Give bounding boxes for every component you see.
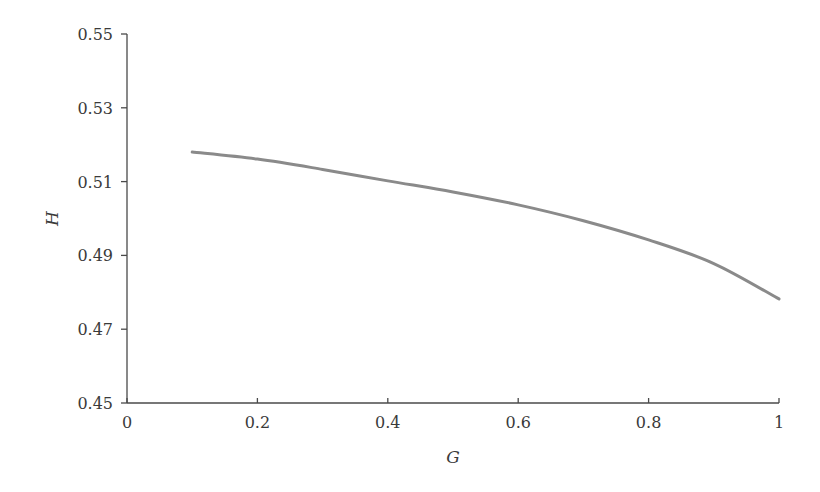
x-tick-label: 0.8 — [636, 413, 661, 432]
series-line — [192, 152, 779, 299]
y-tick-label: 0.55 — [77, 25, 113, 44]
y-tick-label: 0.51 — [77, 173, 113, 192]
y-tick-label: 0.45 — [77, 394, 113, 413]
x-axis-title: G — [446, 447, 460, 467]
y-tick-label: 0.49 — [77, 246, 113, 265]
y-tick-label: 0.53 — [77, 99, 113, 118]
x-tick-label: 0.6 — [505, 413, 530, 432]
y-tick-label: 0.47 — [77, 320, 113, 339]
y-axis-title: H — [42, 210, 62, 227]
line-chart: 0.450.470.490.510.530.55 00.20.40.60.81 … — [0, 0, 820, 492]
series-group — [192, 152, 779, 299]
axes — [127, 34, 779, 403]
x-tick-label: 1 — [774, 413, 784, 432]
x-tick-label: 0.2 — [245, 413, 270, 432]
y-axis-ticks: 0.450.470.490.510.530.55 — [77, 25, 127, 413]
x-tick-label: 0 — [122, 413, 132, 432]
x-tick-label: 0.4 — [375, 413, 400, 432]
